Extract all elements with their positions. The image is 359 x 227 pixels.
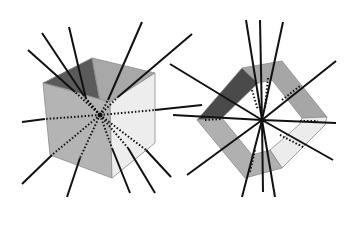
- diagram-canvas: [0, 0, 359, 227]
- ring-segment-bottom-right: [270, 117, 327, 168]
- left-cube: [22, 22, 202, 197]
- right-ring: [170, 20, 336, 197]
- ray-line: [155, 105, 202, 110]
- ray-line: [22, 155, 52, 184]
- center-point: [260, 118, 265, 123]
- ray-line: [22, 119, 45, 122]
- center-point: [98, 113, 103, 118]
- ray-line: [146, 150, 171, 177]
- cube-ray-diagram: [0, 0, 359, 227]
- ring-segment-bottom-left: [197, 118, 282, 178]
